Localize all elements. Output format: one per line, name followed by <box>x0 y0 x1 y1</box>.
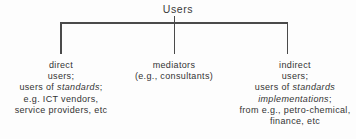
root-stem-line <box>174 16 176 23</box>
node-direct-users-line-4: e.g. ICT vendors, <box>0 94 122 105</box>
node-direct-users-line-3: users of standards; <box>0 82 122 93</box>
node-indirect-users: indirect users; users of standards imple… <box>234 60 356 127</box>
node-direct-users: direct users; users of standards; e.g. I… <box>0 60 122 116</box>
node-direct-users-line-1: direct <box>0 60 122 71</box>
users-taxonomy-diagram: Users direct users; users of standards; … <box>0 0 356 139</box>
node-indirect-users-term-implementations: implementations <box>258 94 329 104</box>
node-indirect-users-line-3-prefix: users of <box>255 82 293 92</box>
branch-line-indirect-users <box>287 22 289 54</box>
node-indirect-users-line-5: from e.g., petro-chemical, <box>234 105 356 116</box>
node-indirect-users-line-6: finance, etc <box>234 116 356 127</box>
node-direct-users-term-standards: standards <box>57 82 100 92</box>
node-direct-users-line-2: users; <box>0 71 122 82</box>
node-indirect-users-line-4-suffix: ; <box>329 94 332 104</box>
node-direct-users-line-5: service providers, etc <box>0 105 122 116</box>
node-indirect-users-line-3: users of standards <box>234 82 356 93</box>
branch-line-direct-users <box>60 22 62 54</box>
node-indirect-users-line-1: indirect <box>234 60 356 71</box>
node-mediators-line-2: (e.g., consultants) <box>112 71 236 82</box>
node-direct-users-line-3-prefix: users of <box>19 82 57 92</box>
horizontal-branch-line <box>60 22 288 24</box>
node-indirect-users-line-2: users; <box>234 71 356 82</box>
node-mediators-line-1: mediators <box>112 60 236 71</box>
root-node-users: Users <box>0 3 356 15</box>
node-indirect-users-line-4: implementations; <box>234 94 356 105</box>
node-mediators: mediators (e.g., consultants) <box>112 60 236 82</box>
branch-line-mediators <box>174 22 176 54</box>
node-direct-users-line-3-suffix: ; <box>100 82 103 92</box>
node-indirect-users-term-standards: standards <box>292 82 335 92</box>
